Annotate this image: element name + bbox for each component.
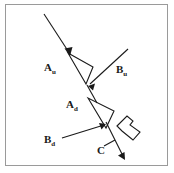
label-output-c: C bbox=[97, 145, 105, 159]
label-b-upper: Bu bbox=[116, 64, 127, 78]
label-b-upper-sub: u bbox=[123, 70, 127, 78]
input-line-a-upper bbox=[44, 14, 73, 56]
label-a-upper-base: A bbox=[44, 61, 52, 73]
label-b-lower: Bd bbox=[44, 134, 55, 148]
label-a-lower-sub: d bbox=[74, 105, 78, 113]
diagram-canvas bbox=[0, 0, 174, 173]
amplifier-upper bbox=[68, 53, 93, 84]
hook-polygon bbox=[117, 116, 140, 140]
figure-root: Au Bu Ad Bd C bbox=[0, 0, 174, 173]
label-a-lower-base: A bbox=[66, 98, 74, 110]
label-a-upper: Au bbox=[44, 62, 56, 76]
label-output-c-base: C bbox=[97, 144, 105, 156]
output-line-c bbox=[104, 122, 125, 160]
input-line-b-lower bbox=[62, 123, 106, 138]
output-tick bbox=[104, 140, 115, 146]
label-a-upper-sub: u bbox=[52, 68, 56, 76]
label-a-lower: Ad bbox=[66, 99, 78, 113]
label-b-lower-sub: d bbox=[51, 140, 55, 148]
